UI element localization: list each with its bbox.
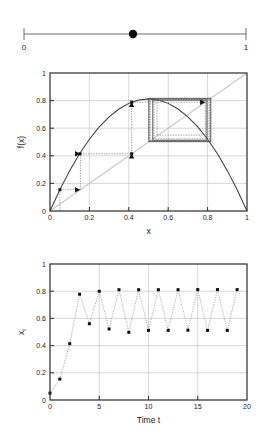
timeseries-xaxis-title: Time t bbox=[137, 415, 161, 425]
timeseries-point bbox=[186, 329, 189, 332]
timeseries-point bbox=[177, 288, 180, 291]
timeseries-ytick-2: 0.4 bbox=[36, 342, 46, 349]
cobweb-ytick-1: 0.2 bbox=[36, 180, 46, 187]
cobweb-xtick-5: 1 bbox=[245, 214, 249, 221]
timeseries-xtick-4: 20 bbox=[243, 403, 251, 410]
timeseries-point bbox=[98, 290, 101, 293]
figure-root: 0 1 bbox=[0, 0, 266, 439]
cobweb-xtick-1: 0.2 bbox=[85, 214, 95, 221]
cobweb-xtick-3: 0.6 bbox=[163, 214, 173, 221]
timeseries-ytick-0: 0 bbox=[42, 397, 46, 404]
timeseries-point bbox=[157, 288, 160, 291]
timeseries-point bbox=[226, 329, 229, 332]
timeseries-xtick-1: 5 bbox=[97, 403, 101, 410]
timeseries-point bbox=[68, 342, 71, 345]
timeseries-point bbox=[167, 329, 170, 332]
timeseries-point bbox=[216, 288, 219, 291]
number-line-label-left: 0 bbox=[22, 43, 27, 52]
timeseries-ytick-5: 1 bbox=[42, 261, 46, 268]
cobweb-xtick-4: 0.8 bbox=[203, 214, 213, 221]
timeseries-point bbox=[88, 322, 91, 325]
timeseries-xtick-0: 0 bbox=[48, 403, 52, 410]
cobweb-ytick-5: 1 bbox=[42, 70, 46, 77]
timeseries-ytick-3: 0.6 bbox=[36, 315, 46, 322]
timeseries-point bbox=[58, 378, 61, 381]
cobweb-xtick-0: 0 bbox=[48, 214, 52, 221]
timeseries-point bbox=[236, 288, 239, 291]
timeseries-point bbox=[117, 288, 120, 291]
number-line-marker-dot bbox=[129, 30, 137, 38]
timeseries-xtick-2: 10 bbox=[145, 403, 153, 410]
timeseries-point bbox=[196, 288, 199, 291]
number-line-label-right: 1 bbox=[244, 43, 249, 52]
cobweb-ytick-2: 0.4 bbox=[36, 152, 46, 159]
cobweb-ytick-4: 0.8 bbox=[36, 97, 46, 104]
cobweb-xtick-2: 0.4 bbox=[124, 214, 134, 221]
timeseries-xtick-3: 15 bbox=[194, 403, 202, 410]
timeseries-point bbox=[78, 293, 81, 296]
timeseries-point bbox=[206, 329, 209, 332]
timeseries-point bbox=[137, 288, 140, 291]
timeseries-point bbox=[127, 331, 130, 334]
timeseries-point bbox=[108, 328, 111, 331]
timeseries-ytick-4: 0.8 bbox=[36, 288, 46, 295]
timeseries-ytick-1: 0.2 bbox=[36, 369, 46, 376]
cobweb-ytick-0: 0 bbox=[42, 208, 46, 215]
timeseries-point bbox=[147, 329, 150, 332]
cobweb-yaxis-title: f(x) bbox=[16, 136, 26, 148]
cobweb-ytick-3: 0.6 bbox=[36, 125, 46, 132]
